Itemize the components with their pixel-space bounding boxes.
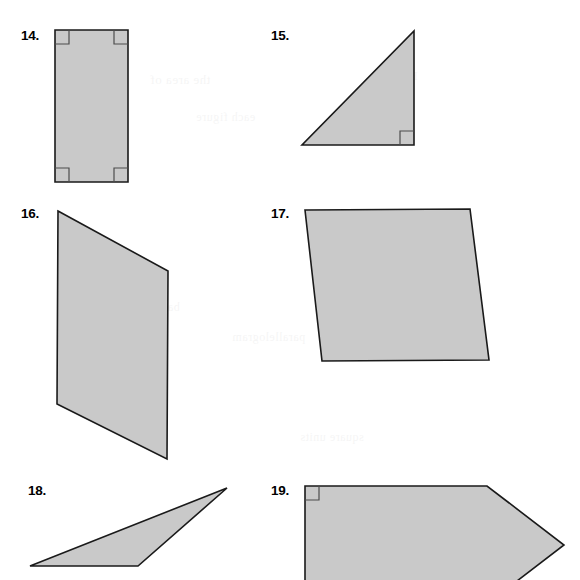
shape-pentagon — [305, 486, 564, 580]
worksheet-page: the area ofFindeach figureparallelogramt… — [0, 0, 580, 580]
item-label-15: 15. — [271, 29, 289, 43]
shape-parallelogram-wide-outline — [305, 209, 489, 361]
item-label-16: 16. — [21, 207, 39, 221]
item-label-17: 17. — [271, 207, 289, 221]
item-label-18: 18. — [28, 484, 46, 498]
shape-obtuse-triangle-outline — [30, 488, 227, 566]
shape-pentagon-outline — [305, 486, 564, 580]
shape-parallelogram-tall — [57, 211, 168, 459]
shape-right-triangle-outline — [302, 31, 414, 145]
figures-canvas — [0, 0, 580, 580]
shape-rectangle-outline — [55, 30, 128, 182]
shape-obtuse-triangle — [30, 488, 227, 566]
item-label-19: 19. — [271, 484, 289, 498]
shape-rectangle — [55, 30, 128, 182]
shape-parallelogram-tall-outline — [57, 211, 168, 459]
shape-right-triangle — [302, 31, 414, 145]
item-label-14: 14. — [21, 29, 39, 43]
shape-parallelogram-wide — [305, 209, 489, 361]
